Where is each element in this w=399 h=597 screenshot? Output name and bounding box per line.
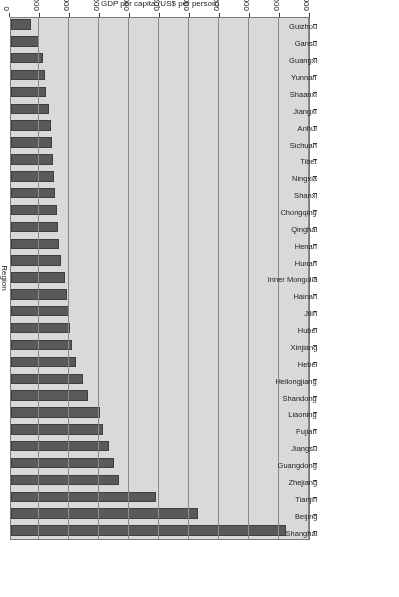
value-axis-tick bbox=[159, 13, 160, 17]
bar-row bbox=[11, 255, 309, 265]
value-axis-tick bbox=[249, 13, 250, 17]
bar-row bbox=[11, 104, 309, 114]
bar[interactable] bbox=[11, 492, 156, 502]
bar-row bbox=[11, 36, 309, 46]
bar-row bbox=[11, 323, 309, 333]
bar[interactable] bbox=[11, 390, 88, 400]
bar[interactable] bbox=[11, 374, 83, 384]
value-axis-tick bbox=[99, 13, 100, 17]
bar[interactable] bbox=[11, 154, 53, 164]
bar[interactable] bbox=[11, 36, 39, 46]
bar[interactable] bbox=[11, 120, 51, 130]
gridline bbox=[68, 18, 69, 539]
bar-row bbox=[11, 70, 309, 80]
category-axis-title: Region bbox=[0, 17, 10, 540]
bar[interactable] bbox=[11, 475, 119, 485]
bar-row bbox=[11, 272, 309, 282]
bar[interactable] bbox=[11, 508, 198, 518]
bar[interactable] bbox=[11, 137, 52, 147]
bar-row bbox=[11, 492, 309, 502]
bar-row bbox=[11, 289, 309, 299]
bar-row bbox=[11, 340, 309, 350]
bar[interactable] bbox=[11, 222, 58, 232]
bar-series bbox=[11, 18, 309, 539]
bar-row bbox=[11, 87, 309, 97]
value-axis-tick bbox=[309, 13, 310, 17]
bar[interactable] bbox=[11, 340, 72, 350]
bar[interactable] bbox=[11, 255, 61, 265]
bar-row bbox=[11, 374, 309, 384]
bar-row bbox=[11, 222, 309, 232]
bar-row bbox=[11, 424, 309, 434]
bar[interactable] bbox=[11, 205, 57, 215]
gridline bbox=[98, 18, 99, 539]
bar-row bbox=[11, 239, 309, 249]
bar[interactable] bbox=[11, 407, 100, 417]
plot-area bbox=[10, 17, 310, 540]
bar-row bbox=[11, 19, 309, 29]
gridline bbox=[248, 18, 249, 539]
gridline bbox=[158, 18, 159, 539]
bar-row bbox=[11, 205, 309, 215]
bar-row bbox=[11, 475, 309, 485]
bar-row bbox=[11, 120, 309, 130]
category-axis-title-label: Region bbox=[1, 266, 10, 291]
bar-row bbox=[11, 508, 309, 518]
value-axis-tick bbox=[189, 13, 190, 17]
bar[interactable] bbox=[11, 19, 31, 29]
bar-row bbox=[11, 441, 309, 451]
gridline bbox=[218, 18, 219, 539]
bar-row bbox=[11, 407, 309, 417]
gridline bbox=[128, 18, 129, 539]
bar[interactable] bbox=[11, 104, 49, 114]
value-axis-title: GDP per capita (US$ per person) bbox=[10, 0, 310, 8]
gridline bbox=[38, 18, 39, 539]
bar-row bbox=[11, 390, 309, 400]
bar[interactable] bbox=[11, 188, 55, 198]
bar-row bbox=[11, 171, 309, 181]
value-axis-tick bbox=[219, 13, 220, 17]
bar-row bbox=[11, 458, 309, 468]
chart-figure: 05001,0001,5002,0002,5003,0003,5004,0004… bbox=[0, 0, 399, 597]
bar-row bbox=[11, 53, 309, 63]
bar[interactable] bbox=[11, 357, 76, 367]
bar[interactable] bbox=[11, 87, 46, 97]
category-axis: ShanghaiBeijingTianjinZhejiangGuangdongJ… bbox=[313, 17, 399, 540]
bar[interactable] bbox=[11, 424, 103, 434]
bar-row bbox=[11, 188, 309, 198]
value-axis-tick bbox=[129, 13, 130, 17]
bar-row bbox=[11, 137, 309, 147]
bar[interactable] bbox=[11, 306, 69, 316]
value-axis-tick bbox=[69, 13, 70, 17]
bar-row bbox=[11, 525, 309, 535]
bar[interactable] bbox=[11, 171, 54, 181]
bar-row bbox=[11, 154, 309, 164]
bar-row bbox=[11, 357, 309, 367]
gridline bbox=[188, 18, 189, 539]
bar[interactable] bbox=[11, 239, 59, 249]
value-axis-tick bbox=[279, 13, 280, 17]
value-axis-tick bbox=[39, 13, 40, 17]
bar[interactable] bbox=[11, 70, 45, 80]
bar[interactable] bbox=[11, 441, 109, 451]
bar[interactable] bbox=[11, 525, 286, 535]
bar-row bbox=[11, 306, 309, 316]
bar[interactable] bbox=[11, 323, 70, 333]
